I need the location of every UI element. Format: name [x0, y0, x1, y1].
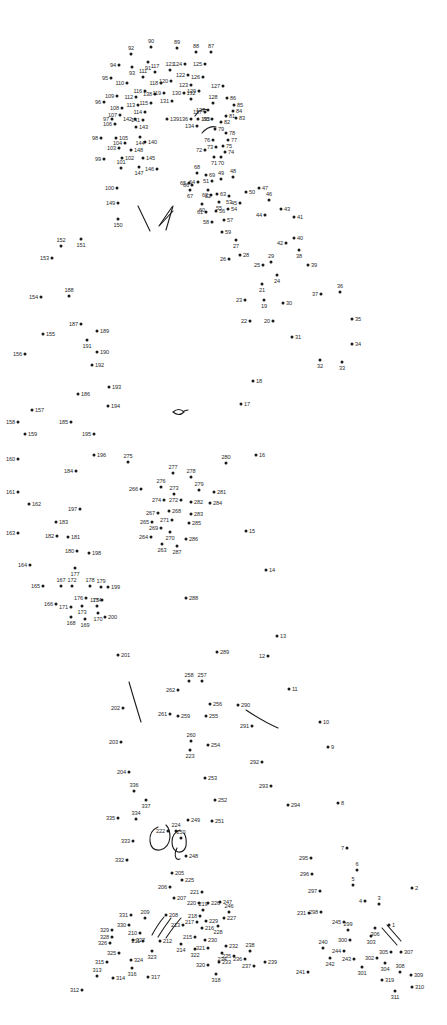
- dot-102[interactable]: [121, 157, 124, 160]
- dot-110[interactable]: [126, 82, 129, 85]
- dot-219[interactable]: [202, 909, 205, 912]
- dot-244[interactable]: [343, 950, 346, 953]
- dot-36[interactable]: [339, 291, 342, 294]
- dot-314[interactable]: [112, 977, 115, 980]
- dot-24[interactable]: [276, 274, 279, 277]
- dot-16[interactable]: [255, 454, 258, 457]
- dot-207[interactable]: [173, 897, 176, 900]
- dot-130[interactable]: [183, 92, 186, 95]
- dot-168[interactable]: [70, 616, 73, 619]
- dot-222[interactable]: [167, 830, 170, 833]
- dot-325[interactable]: [118, 952, 121, 955]
- dot-129[interactable]: [198, 90, 201, 93]
- dot-155[interactable]: [42, 333, 45, 336]
- dot-304[interactable]: [384, 962, 387, 965]
- dot-143[interactable]: [135, 126, 138, 129]
- dot-208[interactable]: [165, 914, 168, 917]
- dot-84[interactable]: [232, 110, 235, 113]
- dot-252[interactable]: [214, 799, 217, 802]
- dot-218[interactable]: [199, 915, 202, 918]
- dot-15[interactable]: [245, 530, 248, 533]
- dot-183[interactable]: [55, 521, 58, 524]
- dot-246[interactable]: [228, 911, 231, 914]
- dot-241[interactable]: [307, 971, 310, 974]
- dot-182[interactable]: [56, 535, 59, 538]
- dot-295[interactable]: [310, 857, 313, 860]
- dot-46[interactable]: [268, 199, 271, 202]
- dot-261[interactable]: [169, 713, 172, 716]
- dot-336[interactable]: [133, 790, 136, 793]
- dot-266[interactable]: [140, 488, 143, 491]
- dot-196[interactable]: [93, 454, 96, 457]
- dot-30[interactable]: [282, 302, 285, 305]
- dot-150[interactable]: [117, 218, 120, 221]
- dot-165[interactable]: [42, 585, 45, 588]
- dot-139[interactable]: [166, 118, 169, 121]
- dot-13[interactable]: [276, 635, 279, 638]
- dot-147[interactable]: [138, 166, 141, 169]
- dot-19[interactable]: [263, 299, 266, 302]
- dot-8[interactable]: [337, 802, 340, 805]
- dot-273[interactable]: [173, 493, 176, 496]
- dot-319[interactable]: [381, 979, 384, 982]
- dot-17[interactable]: [240, 403, 243, 406]
- dot-159[interactable]: [24, 433, 27, 436]
- dot-269[interactable]: [160, 527, 163, 530]
- dot-298[interactable]: [320, 911, 323, 914]
- dot-45[interactable]: [239, 202, 242, 205]
- dot-169[interactable]: [84, 618, 87, 621]
- dot-185[interactable]: [70, 421, 73, 424]
- dot-96[interactable]: [103, 101, 106, 104]
- dot-23[interactable]: [244, 299, 247, 302]
- dot-174[interactable]: [96, 605, 99, 608]
- dot-186[interactable]: [77, 393, 80, 396]
- dot-18[interactable]: [252, 380, 255, 383]
- dot-256[interactable]: [209, 703, 212, 706]
- dot-172[interactable]: [71, 585, 74, 588]
- dot-4[interactable]: [364, 900, 367, 903]
- dot-127[interactable]: [222, 85, 225, 88]
- dot-48[interactable]: [232, 176, 235, 179]
- dot-120[interactable]: [170, 80, 173, 83]
- dot-180[interactable]: [76, 550, 79, 553]
- dot-190[interactable]: [96, 351, 99, 354]
- dot-98[interactable]: [100, 137, 103, 140]
- dot-101[interactable]: [120, 167, 123, 170]
- dot-249[interactable]: [187, 819, 190, 822]
- dot-99[interactable]: [103, 158, 106, 161]
- dot-286[interactable]: [185, 538, 188, 541]
- dot-51[interactable]: [211, 180, 214, 183]
- dot-307[interactable]: [400, 951, 403, 954]
- dot-108[interactable]: [121, 107, 124, 110]
- dot-284[interactable]: [209, 502, 212, 505]
- dot-215[interactable]: [194, 936, 197, 939]
- dot-260[interactable]: [190, 740, 193, 743]
- dot-80[interactable]: [211, 118, 214, 121]
- dot-54[interactable]: [227, 208, 230, 211]
- dot-166[interactable]: [55, 603, 58, 606]
- dot-77[interactable]: [227, 139, 230, 142]
- dot-198[interactable]: [88, 552, 91, 555]
- dot-29[interactable]: [270, 261, 273, 264]
- dot-216[interactable]: [201, 927, 204, 930]
- dot-167[interactable]: [60, 585, 63, 588]
- dot-146[interactable]: [156, 168, 159, 171]
- dot-217[interactable]: [196, 921, 199, 924]
- dot-160[interactable]: [17, 458, 20, 461]
- dot-89[interactable]: [176, 47, 179, 50]
- dot-278[interactable]: [190, 476, 193, 479]
- dot-162[interactable]: [28, 503, 31, 506]
- dot-321[interactable]: [207, 947, 210, 950]
- dot-239[interactable]: [264, 961, 267, 964]
- dot-310[interactable]: [411, 986, 414, 989]
- dot-292[interactable]: [261, 761, 264, 764]
- dot-299[interactable]: [347, 929, 350, 932]
- dot-320[interactable]: [207, 964, 210, 967]
- dot-25[interactable]: [262, 264, 265, 267]
- dot-206[interactable]: [169, 886, 172, 889]
- dot-136[interactable]: [190, 118, 193, 121]
- dot-115[interactable]: [150, 102, 153, 105]
- dot-128[interactable]: [212, 102, 215, 105]
- dot-33[interactable]: [341, 361, 344, 364]
- dot-37[interactable]: [320, 293, 323, 296]
